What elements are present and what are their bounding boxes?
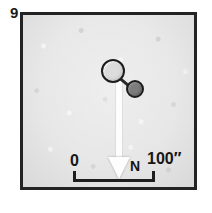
scale-bar-end-label: 100″ [147,151,181,167]
north-arrow-shaft [116,71,122,161]
scale-bar-line [73,179,155,182]
panel-number-label: 9 [10,5,18,21]
north-arrow-head-icon [108,157,130,179]
image-frame: 0 N 100″ [20,12,197,190]
scale-bar-start-label: 0 [70,153,79,169]
primary-source-marker [101,59,125,83]
secondary-source-marker [126,80,144,98]
north-direction-label: N [130,159,140,173]
figure-panel: 9 0 N 100″ [0,0,212,213]
scale-bar-tick-right [152,171,155,180]
